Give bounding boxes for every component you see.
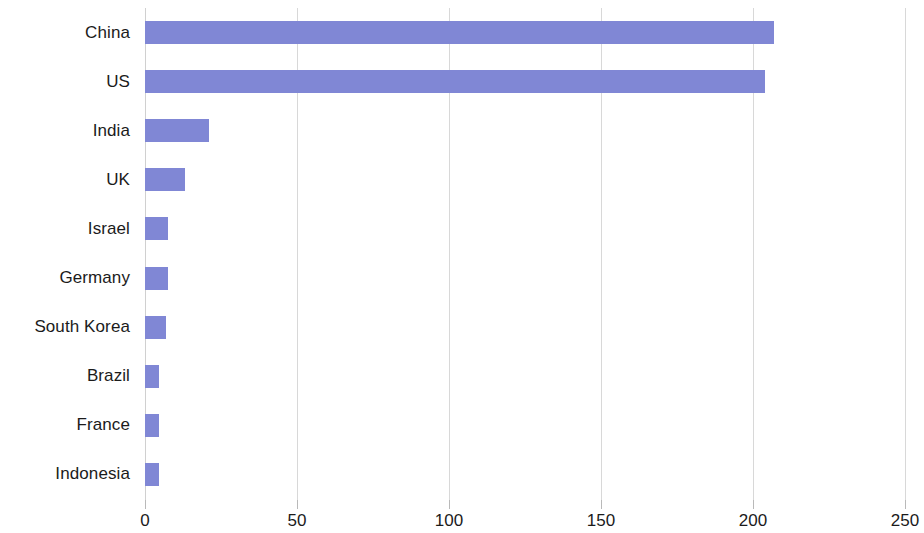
bar-uk[interactable] (145, 168, 185, 191)
y-axis-label-south-korea: South Korea (0, 318, 130, 335)
bar-chart: ChinaUSIndiaUKIsraelGermanySouth KoreaBr… (0, 0, 924, 533)
x-tick-mark-0 (145, 500, 146, 509)
x-tick-label-200: 200 (693, 511, 813, 530)
bar-us[interactable] (145, 70, 765, 93)
y-axis-label-india: India (0, 122, 130, 139)
x-tick-mark-150 (601, 500, 602, 509)
y-axis-label-brazil: Brazil (0, 367, 130, 384)
bar-israel[interactable] (145, 217, 168, 240)
bar-france[interactable] (145, 414, 159, 437)
y-axis-label-china: China (0, 24, 130, 41)
y-axis-label-indonesia: Indonesia (0, 465, 130, 482)
plot-area (145, 8, 905, 500)
bar-china[interactable] (145, 21, 774, 44)
x-tick-mark-250 (905, 500, 906, 509)
x-tick-label-50: 50 (237, 511, 357, 530)
x-tick-mark-200 (753, 500, 754, 509)
x-tick-label-0: 0 (85, 511, 205, 530)
y-axis-label-israel: Israel (0, 220, 130, 237)
x-tick-mark-100 (449, 500, 450, 509)
bar-south-korea[interactable] (145, 316, 166, 339)
bar-germany[interactable] (145, 267, 168, 290)
y-axis-label-uk: UK (0, 171, 130, 188)
x-tick-label-150: 150 (541, 511, 661, 530)
bar-indonesia[interactable] (145, 463, 159, 486)
y-axis-label-us: US (0, 73, 130, 90)
x-tick-label-100: 100 (389, 511, 509, 530)
gridline-250 (905, 8, 906, 500)
x-tick-label-250: 250 (845, 511, 924, 530)
bar-india[interactable] (145, 119, 209, 142)
bar-brazil[interactable] (145, 365, 159, 388)
x-tick-mark-50 (297, 500, 298, 509)
y-axis-label-france: France (0, 416, 130, 433)
y-axis-label-germany: Germany (0, 269, 130, 286)
